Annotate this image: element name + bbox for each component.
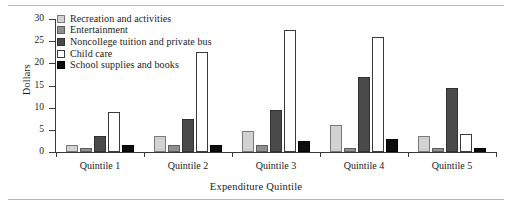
bar-1-4 bbox=[108, 112, 121, 152]
y-tick-label-10: 10 bbox=[0, 103, 44, 113]
bar-3-2 bbox=[256, 145, 269, 152]
bar-1-2 bbox=[80, 148, 93, 152]
bar-5-4 bbox=[460, 134, 473, 152]
bar-3-5 bbox=[298, 141, 311, 152]
bar-1-3 bbox=[94, 136, 107, 152]
legend-item-label: School supplies and books bbox=[70, 60, 179, 70]
bar-3-1 bbox=[242, 131, 255, 152]
y-tick-20 bbox=[49, 63, 55, 64]
bar-2-5 bbox=[210, 145, 223, 152]
chart-legend: Recreation and activitiesEntertainmentNo… bbox=[57, 13, 212, 71]
x-axis-label-4: Quintile 4 bbox=[320, 160, 408, 171]
x-axis-title: Expenditure Quintile bbox=[0, 181, 512, 192]
legend-item-4: Child care bbox=[57, 48, 212, 60]
swatch-black-icon bbox=[57, 61, 65, 69]
bar-3-4 bbox=[284, 30, 297, 152]
swatch-white-icon bbox=[57, 50, 65, 58]
x-axis-label-3: Quintile 3 bbox=[232, 160, 320, 171]
y-tick-0 bbox=[49, 152, 55, 153]
legend-item-1: Recreation and activities bbox=[57, 13, 212, 25]
bar-5-5 bbox=[474, 148, 487, 152]
legend-item-3: Noncollege tuition and private bus bbox=[57, 36, 212, 48]
bar-2-3 bbox=[182, 119, 195, 152]
bar-1-5 bbox=[122, 145, 135, 152]
legend-item-label: Recreation and activities bbox=[70, 14, 171, 24]
x-axis-label-5: Quintile 5 bbox=[408, 160, 496, 171]
x-axis-label-2: Quintile 2 bbox=[144, 160, 232, 171]
bar-4-1 bbox=[330, 125, 343, 152]
y-axis-line bbox=[55, 19, 56, 153]
x-tick-origin bbox=[56, 152, 57, 157]
y-tick-30 bbox=[49, 19, 55, 20]
bar-4-4 bbox=[372, 37, 385, 152]
bar-4-5 bbox=[386, 139, 399, 152]
swatch-dark-gray-icon bbox=[57, 38, 65, 46]
legend-item-2: Entertainment bbox=[57, 25, 212, 37]
legend-item-5: School supplies and books bbox=[57, 59, 212, 71]
x-tick-1 bbox=[144, 152, 145, 157]
y-tick-25 bbox=[49, 41, 55, 42]
y-tick-label-0: 0 bbox=[0, 147, 44, 157]
legend-item-label: Noncollege tuition and private bus bbox=[70, 37, 212, 47]
swatch-medium-gray-icon bbox=[57, 26, 65, 34]
y-tick-label-20: 20 bbox=[0, 58, 44, 68]
y-axis-tick-labels: 051015202530 bbox=[0, 0, 48, 204]
y-tick-label-25: 25 bbox=[0, 36, 44, 46]
bar-2-1 bbox=[154, 136, 167, 152]
bar-5-3 bbox=[446, 88, 459, 152]
swatch-light-gray-icon bbox=[57, 15, 65, 23]
x-tick-5 bbox=[496, 152, 497, 157]
bar-3-3 bbox=[270, 110, 283, 152]
bar-2-2 bbox=[168, 145, 181, 152]
x-axis-line bbox=[55, 152, 497, 153]
x-axis-label-1: Quintile 1 bbox=[56, 160, 144, 171]
y-tick-15 bbox=[49, 86, 55, 87]
x-tick-2 bbox=[232, 152, 233, 157]
bar-5-1 bbox=[418, 136, 431, 152]
y-tick-10 bbox=[49, 108, 55, 109]
y-tick-5 bbox=[49, 130, 55, 131]
bar-chart-figure: Dollars 051015202530 Quintile 1Quintile … bbox=[0, 0, 512, 204]
legend-item-label: Entertainment bbox=[70, 25, 128, 35]
y-tick-label-15: 15 bbox=[0, 81, 44, 91]
bar-4-2 bbox=[344, 148, 357, 152]
legend-item-label: Child care bbox=[70, 49, 112, 59]
x-tick-3 bbox=[320, 152, 321, 157]
bar-5-2 bbox=[432, 148, 445, 152]
x-tick-4 bbox=[408, 152, 409, 157]
y-tick-label-30: 30 bbox=[0, 14, 44, 24]
bar-1-1 bbox=[66, 145, 79, 152]
y-tick-label-5: 5 bbox=[0, 125, 44, 135]
bar-4-3 bbox=[358, 77, 371, 152]
